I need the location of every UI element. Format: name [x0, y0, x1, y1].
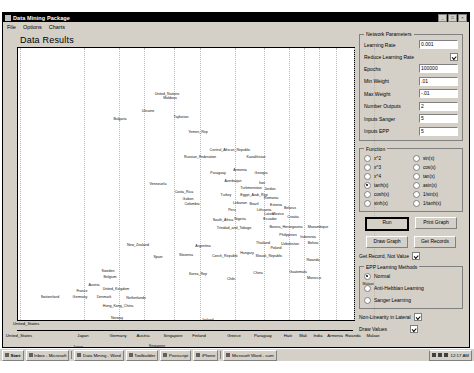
taskbar-item-word-sum[interactable]: Microsoft Word - sum [223, 350, 276, 361]
learning-rate-input[interactable]: 0.001 [419, 40, 458, 49]
number-outputs-label: Number Outputs [364, 103, 419, 109]
function-option-inv-sin[interactable]: 1/sin(x) [413, 191, 458, 198]
data-point-label: Morocco [307, 277, 321, 281]
get-record-not-value-checkbox[interactable] [412, 252, 420, 260]
radio-icon[interactable] [413, 164, 420, 171]
x-axis-tick-label: Paraguay [254, 333, 272, 338]
grid-line [119, 48, 120, 320]
function-label: sinh(x) [374, 201, 388, 206]
radio-icon[interactable] [364, 285, 371, 292]
page-title: Data Results [20, 35, 74, 45]
radio-icon[interactable] [364, 297, 371, 304]
non-linearity-row[interactable]: Non-Linearity in Lateral [359, 313, 463, 321]
maximize-button[interactable]: □ [448, 14, 457, 22]
epp-option-label: Sanger Learning [374, 297, 411, 303]
non-linearity-checkbox[interactable] [414, 313, 422, 321]
function-option-x2[interactable]: x^2 [364, 155, 409, 162]
function-option-sinh[interactable]: sinh(x) [364, 200, 409, 207]
radio-icon[interactable] [413, 191, 420, 198]
radio-icon[interactable] [413, 155, 420, 162]
epp-option-anti-hebbian[interactable]: Anti-Hebbian Learning [364, 285, 458, 292]
tray-icon-1[interactable] [432, 353, 436, 357]
radio-icon[interactable] [364, 273, 371, 280]
field-reduce-learning-rate[interactable]: Reduce Learning Rate [364, 53, 458, 61]
x-axis-tick-label: India [313, 333, 322, 338]
radio-icon[interactable] [364, 164, 371, 171]
radio-icon[interactable] [364, 200, 371, 207]
menu-item-file[interactable]: File [7, 24, 16, 30]
draw-values-row[interactable]: Draw Values [359, 325, 463, 333]
print-graph-button[interactable]: Print Graph [415, 217, 457, 229]
function-label: 1/tanh(x) [423, 201, 441, 206]
data-point-label: Norway [111, 317, 123, 321]
system-tray: 12:17 AM [429, 350, 472, 361]
clock[interactable]: 12:17 AM [450, 353, 469, 358]
x-axis-tick-label: Finland [192, 333, 206, 338]
epochs-input[interactable]: 100000 [419, 64, 458, 73]
function-option-cos[interactable]: cos(x) [413, 164, 458, 171]
taskbar-item-postscript[interactable]: Postscript [160, 350, 191, 361]
data-point-label: Poland [270, 247, 281, 251]
tray-icon-2[interactable] [438, 353, 442, 357]
draw-graph-button[interactable]: Draw Graph [366, 236, 408, 248]
radio-icon[interactable] [364, 173, 371, 180]
tray-icon-3[interactable] [444, 353, 448, 357]
get-record-not-value-row[interactable]: Get Record, Not Value [359, 252, 463, 260]
function-legend: Function [364, 146, 387, 152]
grid-line [289, 48, 290, 320]
radio-icon[interactable] [364, 155, 371, 162]
function-label: asin(x) [423, 183, 437, 188]
function-option-inv-tanh[interactable]: 1/tanh(x) [413, 200, 458, 207]
function-option-x3[interactable]: x^3 [364, 164, 409, 171]
phone-icon [196, 353, 200, 357]
taskbar-item-label: Microsoft Word - sum [232, 353, 274, 358]
data-point-label: Central_African_Republic [210, 149, 251, 153]
data-point-label: Turkey [221, 194, 232, 198]
epp-learning-group: EPP Learning Methods Normal Anti-Hebbian… [359, 264, 463, 309]
function-option-asin[interactable]: asin(x) [413, 182, 458, 189]
max-weight-input[interactable]: -.01 [419, 89, 458, 98]
epp-learning-legend: EPP Learning Methods [364, 264, 419, 270]
draw-values-checkbox[interactable] [410, 325, 418, 333]
data-point-label: Brazil [250, 203, 259, 207]
start-button[interactable]: Start [2, 350, 24, 361]
taskbar-item-toolbuilder[interactable]: Toolbuilder [126, 350, 159, 361]
draw-values-label: Draw Values [359, 326, 407, 332]
number-outputs-input[interactable]: 2 [419, 102, 458, 111]
taskbar-item-iphone[interactable]: iPhone [193, 350, 218, 361]
menu-item-options[interactable]: Options [23, 24, 42, 30]
radio-icon[interactable] [413, 200, 420, 207]
function-option-tan[interactable]: tan(x) [413, 173, 458, 180]
grid-line [336, 48, 337, 320]
taskbar-item-inbox[interactable]: Inbox - Microsoft [26, 350, 70, 361]
run-button[interactable]: Run [365, 217, 409, 231]
data-point-label: Thailand [256, 242, 270, 246]
taskbar-item-word[interactable]: Data Mining - Word [74, 350, 123, 361]
data-point-label: Trinidad_and_Tobago [217, 227, 252, 231]
epp-option-sanger[interactable]: Sanger Learning [364, 297, 458, 304]
reduce-learning-rate-checkbox[interactable] [450, 53, 458, 61]
data-point-label: Georgia [255, 172, 268, 176]
function-option-sin[interactable]: sin(x) [413, 155, 458, 162]
inputs-epp-input[interactable]: 5 [419, 127, 458, 136]
radio-icon[interactable] [364, 191, 371, 198]
radio-icon[interactable] [413, 182, 420, 189]
data-point-label: Chile [227, 278, 235, 282]
radio-icon[interactable] [413, 173, 420, 180]
minimize-button[interactable]: _ [438, 14, 447, 22]
function-label: sin(x) [423, 156, 434, 161]
radio-icon[interactable] [364, 182, 371, 189]
min-weight-input[interactable]: .01 [419, 77, 458, 86]
inputs-sanger-input[interactable]: 5 [419, 114, 458, 123]
get-records-button[interactable]: Get Records [414, 236, 456, 248]
close-button[interactable]: × [458, 14, 467, 22]
function-option-x4[interactable]: x^4 [364, 173, 409, 180]
epp-option-normal[interactable]: Normal [364, 273, 458, 280]
function-option-tanh[interactable]: tanh(x) [364, 182, 409, 189]
function-option-cosh[interactable]: cosh(x) [364, 191, 409, 198]
data-point-label: Argentina [195, 245, 210, 249]
data-point-label: Colombia [184, 203, 199, 207]
field-max-weight: Max Weight -.01 [364, 89, 458, 98]
menu-item-charts[interactable]: Charts [49, 24, 65, 30]
grid-line [20, 48, 21, 320]
